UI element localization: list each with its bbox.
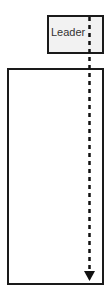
leader-timeline	[0, 0, 110, 300]
arrow-down-icon	[84, 271, 95, 281]
